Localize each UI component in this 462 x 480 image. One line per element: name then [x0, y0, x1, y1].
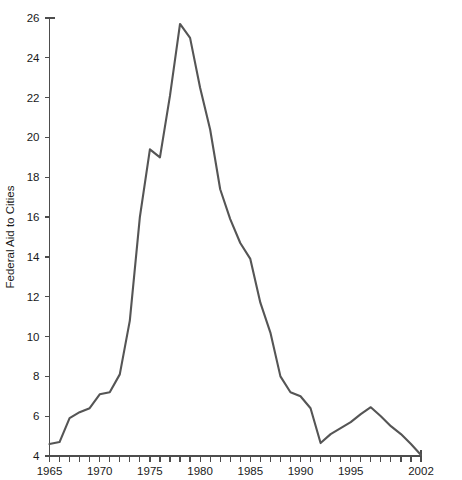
y-tick-label: 24	[27, 52, 40, 64]
data-line-federal-aid	[50, 24, 422, 455]
y-tick-label: 10	[27, 331, 40, 343]
y-axis-title-group: Federal Aid to Cities	[4, 185, 16, 288]
y-axis: 468101214161820222426	[27, 12, 55, 462]
y-tick-label: 20	[27, 131, 40, 143]
x-tick-label: 1980	[187, 465, 213, 477]
x-tick-label: 1995	[338, 465, 364, 477]
y-tick-label: 14	[27, 251, 40, 263]
x-tick-label: 1985	[238, 465, 264, 477]
y-tick-label: 4	[33, 450, 40, 462]
x-tick-label: 1990	[288, 465, 314, 477]
y-tick-label: 12	[27, 291, 40, 303]
y-axis-title: Federal Aid to Cities	[4, 185, 16, 288]
y-tick-label: 8	[33, 370, 39, 382]
chart-container: Federal Aid to Cities 468101214161820222…	[0, 0, 462, 480]
y-tick-labels: 468101214161820222426	[27, 12, 40, 462]
x-tick-labels: 19651970197519801985199019952002	[37, 465, 434, 477]
x-tick-label: 2002	[408, 465, 434, 477]
x-tick-marks	[50, 456, 422, 462]
y-tick-label: 6	[33, 410, 39, 422]
line-chart: Federal Aid to Cities 468101214161820222…	[0, 0, 462, 480]
data-series-group	[50, 24, 422, 455]
y-tick-label: 18	[27, 171, 40, 183]
x-tick-label: 1975	[137, 465, 163, 477]
x-tick-label: 1970	[87, 465, 113, 477]
y-tick-label: 16	[27, 211, 40, 223]
y-tick-label: 22	[27, 92, 40, 104]
x-tick-label: 1965	[37, 465, 63, 477]
y-tick-marks	[45, 18, 50, 456]
x-axis: 19651970197519801985199019952002	[37, 450, 434, 477]
y-tick-label: 26	[27, 12, 40, 24]
